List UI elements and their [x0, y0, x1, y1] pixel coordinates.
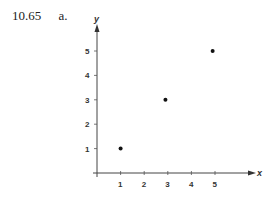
y-axis-arrow-icon — [95, 24, 100, 32]
y-tick-label: 1 — [85, 145, 90, 154]
y-axis-label: y — [93, 14, 100, 24]
x-tick-label: 3 — [165, 180, 170, 189]
ticks: 1234512345 — [85, 47, 218, 189]
y-tick-label: 2 — [85, 120, 90, 129]
y-tick-label: 5 — [85, 47, 90, 56]
data-point — [119, 147, 123, 151]
x-axis-label: x — [256, 168, 263, 178]
x-axis-arrow-icon — [248, 171, 256, 176]
axes: xy — [93, 14, 263, 178]
data-point — [163, 98, 167, 102]
x-tick-label: 2 — [142, 180, 147, 189]
x-tick-label: 4 — [189, 180, 194, 189]
scatter-plot: xy 1234512345 — [0, 0, 272, 201]
x-tick-label: 5 — [213, 180, 218, 189]
data-points — [119, 49, 215, 151]
y-tick-label: 3 — [85, 96, 90, 105]
y-tick-label: 4 — [85, 71, 90, 80]
data-point — [211, 49, 215, 53]
x-tick-label: 1 — [118, 180, 123, 189]
